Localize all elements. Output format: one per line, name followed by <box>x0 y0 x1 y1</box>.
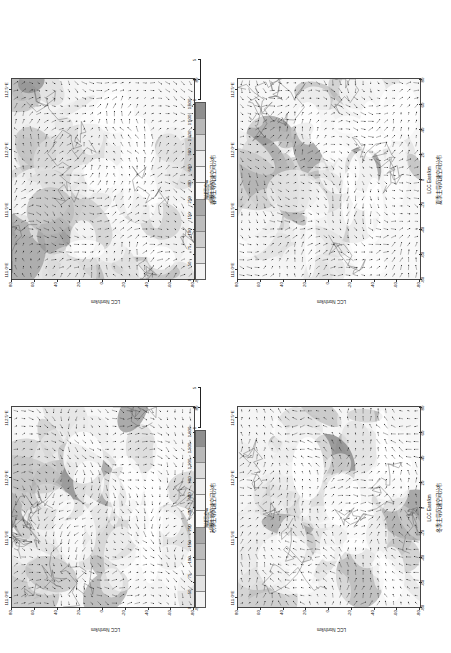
colorbar-swatch-0 <box>196 263 205 279</box>
colorbar-tick-7: 600 <box>187 493 192 500</box>
colorbar-1: 050751001502504006009001 2001 5001 800海拔… <box>191 80 209 280</box>
wind-key-tick-1: 3 <box>192 407 197 409</box>
colorbar-tick-3: 100 <box>187 557 192 564</box>
colorbar-tick-8: 900 <box>187 477 192 484</box>
colorbar-tick-1: 50 <box>187 262 192 267</box>
colorbar-tick-3: 100 <box>187 229 192 236</box>
panel-summer[interactable]: -80-60-40-20020406080-80-60-40-200204060… <box>226 0 451 327</box>
wind-key-1: 135 <box>191 54 209 102</box>
colorbar-tick-8: 900 <box>187 149 192 156</box>
colorbar-tick-1: 50 <box>187 590 192 595</box>
colorbar-swatch-4 <box>196 199 205 215</box>
colorbar-swatch-10 <box>196 103 205 118</box>
colorbar-caption-wind-1: 风速/（m/s） <box>210 160 215 220</box>
legend-canvas-3: 050751001502504006009001 2001 5001 800海拔… <box>227 329 450 653</box>
colorbar-swatch-8 <box>196 134 205 150</box>
colorbar-swatch-9 <box>196 118 205 134</box>
colorbar-3: 050751001502504006009001 2001 5001 800海拔… <box>191 408 209 608</box>
colorbar-swatch-10 <box>196 431 205 446</box>
colorbar-tick-0: 0 <box>187 607 192 609</box>
colorbar-tick-4: 150 <box>187 213 192 220</box>
colorbar-swatch-8 <box>196 462 205 478</box>
colorbar-swatch-7 <box>196 150 205 166</box>
figure-page: -80-60-40-20020406080-80-60-40-200204060… <box>0 0 451 653</box>
colorbar-swatch-3 <box>196 215 205 231</box>
colorbar-tick-5: 250 <box>187 525 192 532</box>
colorbar-swatch-9 <box>196 446 205 462</box>
wind-key-3: 135 <box>191 382 209 430</box>
colorbar-tick-5: 250 <box>187 197 192 204</box>
colorbar-tick-0: 0 <box>187 279 192 281</box>
colorbar-tick-2: 75 <box>187 574 192 579</box>
wind-key-tick-0: 1 <box>192 99 197 101</box>
colorbar-tick-6: 400 <box>187 181 192 188</box>
colorbar-tick-7: 600 <box>187 165 192 172</box>
colorbar-tick-10: 1 500 <box>187 115 192 125</box>
colorbar-tick-4: 150 <box>187 541 192 548</box>
colorbar-swatch-0 <box>196 591 205 607</box>
colorbar-swatch-2 <box>196 231 205 247</box>
wind-key-tick-2: 5 <box>192 387 197 389</box>
wind-key-tick-0: 1 <box>192 427 197 429</box>
colorbar-swatch-1 <box>196 247 205 263</box>
colorbar-tick-10: 1 500 <box>187 443 192 453</box>
colorbar-caption-wind-3: 风速/（m/s） <box>210 488 215 548</box>
wind-key-tick-1: 3 <box>192 79 197 81</box>
colorbar-swatch-3 <box>196 543 205 559</box>
panel-winter[interactable]: -80-60-40-20020406080-80-60-40-200204060… <box>226 328 451 653</box>
legend-canvas-1: 050751001502504006009001 2001 5001 800海拔… <box>227 1 450 326</box>
wind-key-tick-2: 5 <box>192 59 197 61</box>
colorbar-tick-6: 400 <box>187 509 192 516</box>
colorbar-swatch-2 <box>196 559 205 575</box>
colorbar-tick-9: 1 200 <box>187 131 192 141</box>
colorbar-tick-9: 1 200 <box>187 459 192 469</box>
colorbar-tick-2: 75 <box>187 246 192 251</box>
colorbar-swatch-7 <box>196 478 205 494</box>
colorbar-swatch-4 <box>196 527 205 543</box>
colorbar-swatch-1 <box>196 575 205 591</box>
